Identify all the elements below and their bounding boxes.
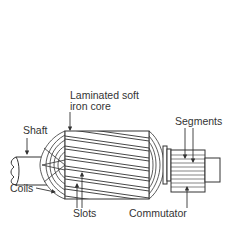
laminated-core [65, 126, 149, 208]
label-laminated-core-line2: iron core [70, 101, 111, 112]
label-shaft: Shaft [23, 125, 48, 136]
label-commutator: Commutator [129, 208, 187, 219]
label-segments: Segments [175, 116, 222, 127]
coil-end-right [149, 131, 164, 199]
label-coils: Coils [10, 183, 33, 194]
coil-end-left [40, 131, 65, 199]
label-slots: Slots [73, 208, 96, 219]
commutator-body [163, 146, 220, 192]
